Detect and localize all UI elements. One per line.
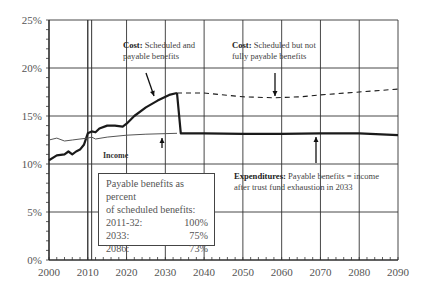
cost-scheduled-but-not-fully-payable-ben-line: [177, 89, 398, 98]
annotation-expenditures-line2: after trust fund exhaustion in 2033: [234, 182, 353, 192]
annotation-expenditures-line1: Payable benefits = income: [286, 171, 379, 181]
annotation-cost-payable-bold: Cost:: [123, 40, 143, 50]
y-tick-label: 20%: [22, 62, 42, 74]
x-tick-label: 2030: [154, 266, 177, 278]
annotation-cost-unpayable: Cost: Scheduled but not fully payable be…: [232, 40, 316, 62]
legend-row: 2011-32: 100%: [106, 216, 208, 229]
x-tick-label: 2010: [77, 266, 100, 278]
x-tick-label: 2000: [38, 266, 61, 278]
y-tick-label: 0%: [27, 254, 42, 266]
y-tick-label: 15%: [22, 110, 42, 122]
annotation-cost-payable: Cost: Scheduled and payable benefits: [123, 40, 195, 62]
data-series: [49, 89, 398, 160]
annotation-cost-payable-line2: payable benefits: [123, 51, 179, 61]
legend-period: 2011-32:: [106, 216, 142, 229]
legend-row: 2086: 73%: [106, 242, 208, 255]
annotation-arrows: [146, 73, 319, 163]
annotation-income: Income: [103, 151, 128, 160]
annotation-cost-unpayable-line1: Scheduled but not: [252, 40, 316, 50]
x-tick-label: 2020: [116, 266, 139, 278]
x-tick-label: 2080: [348, 266, 371, 278]
arrow-up-icon-head: [160, 138, 165, 143]
legend-title-line1: Payable benefits as percent: [106, 177, 208, 203]
arrow-down-icon-head: [150, 90, 155, 96]
x-tick-label: 2070: [309, 266, 332, 278]
income-line: [49, 133, 177, 141]
legend-value: 100%: [184, 216, 208, 229]
annotation-cost-payable-line1: Scheduled and: [143, 40, 196, 50]
legend-value: 75%: [189, 229, 208, 242]
annotation-cost-unpayable-bold: Cost:: [232, 40, 252, 50]
x-tick-label: 2090: [387, 266, 410, 278]
legend-period: 2033:: [106, 229, 129, 242]
legend-title-line2: of scheduled benefits:: [106, 203, 208, 216]
y-axis-labels: 0%5%10%15%20%25%: [22, 14, 42, 266]
legend-box: Payable benefits as percent of scheduled…: [98, 173, 215, 246]
legend-row: 2033: 75%: [106, 229, 208, 242]
chart-canvas: 0%5%10%15%20%25% 20002010202020302040205…: [0, 0, 427, 294]
x-tick-label: 2060: [271, 266, 294, 278]
x-tick-label: 2050: [232, 266, 255, 278]
annotation-expenditures: Expenditures: Payable benefits = income …: [234, 171, 379, 193]
x-axis-labels: 2000201020202030204020502060207020802090: [38, 266, 410, 278]
legend-period: 2086:: [106, 242, 129, 255]
annotation-expenditures-bold: Expenditures:: [234, 171, 286, 181]
expenditures-payable-benefits-income-aft-line: [177, 93, 398, 135]
annotation-cost-unpayable-line2: fully payable benefits: [232, 51, 306, 61]
arrow-down-icon-head: [273, 91, 278, 96]
y-tick-label: 25%: [22, 14, 42, 26]
x-tick-label: 2040: [193, 266, 216, 278]
y-tick-label: 10%: [22, 158, 42, 170]
legend-value: 73%: [189, 242, 208, 255]
y-tick-label: 5%: [27, 206, 42, 218]
arrow-up-icon-head: [314, 137, 319, 142]
